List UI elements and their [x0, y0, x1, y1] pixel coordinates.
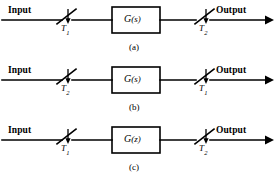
row-caption: (b)	[129, 103, 140, 112]
output-label: Output	[216, 6, 246, 16]
sampler1-arm	[57, 9, 76, 24]
left-sampler-label: T2	[61, 84, 69, 95]
diagram-row-c: Input Output T1 T2 G(z) (c)	[0, 120, 278, 180]
input-label: Input	[8, 66, 31, 76]
output-arrowhead-icon	[265, 76, 274, 85]
left-sampler-label: T1	[61, 144, 69, 155]
block-label: G(s)	[124, 74, 141, 84]
row-caption: (a)	[129, 43, 139, 52]
sampler1-arm	[57, 129, 76, 144]
diagram-row-b: Input Output T2 T1 G(s) (b)	[0, 60, 278, 120]
block-label: G(s)	[124, 14, 141, 24]
sampler2-arm	[195, 9, 214, 24]
right-sampler-label: T1	[199, 84, 207, 95]
diagram-row-a: Input Output T1 T2 G(s) (a)	[0, 0, 278, 60]
row-caption: (c)	[129, 163, 139, 172]
input-label: Input	[8, 6, 31, 16]
right-sampler-label: T2	[199, 24, 207, 35]
output-label: Output	[216, 66, 246, 76]
output-label: Output	[216, 126, 246, 136]
block-label: G(z)	[124, 134, 141, 144]
output-arrowhead-icon	[265, 136, 274, 145]
sampler2-arm	[195, 69, 214, 84]
sampler1-arm	[57, 69, 76, 84]
right-sampler-label: T2	[199, 144, 207, 155]
input-label: Input	[8, 126, 31, 136]
left-sampler-label: T1	[61, 24, 69, 35]
figure-sampled-data-block-diagrams: Input Output T1 T2 G(s) (a)	[0, 0, 278, 180]
sampler2-arm	[195, 129, 214, 144]
output-arrowhead-icon	[265, 16, 274, 25]
